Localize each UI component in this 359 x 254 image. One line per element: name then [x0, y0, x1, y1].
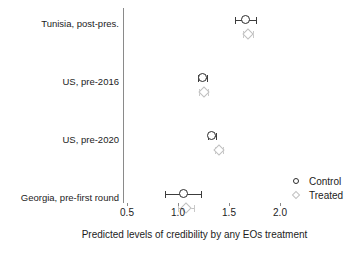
data-point-control[interactable]: [241, 15, 250, 24]
x-axis-tick-label-0: 0.5: [107, 207, 147, 218]
legend-item-control[interactable]: Control: [288, 174, 343, 188]
error-bar-cap: [253, 31, 254, 38]
x-axis-tick-1: [178, 203, 179, 206]
x-axis-tick-label-2: 1.5: [209, 207, 249, 218]
x-axis-tick-3: [280, 203, 281, 206]
chart-figure: Tunisia, post-pres. US, pre-2016 US, pre…: [0, 0, 359, 254]
error-bar-cap: [165, 191, 166, 198]
error-bar-cap: [201, 191, 202, 198]
error-bar-cap: [256, 17, 257, 24]
x-axis-title: Predicted levels of credibility by any E…: [0, 229, 359, 240]
x-axis-tick-2: [229, 203, 230, 206]
legend-label-treated: Treated: [309, 190, 343, 201]
legend-item-treated[interactable]: Treated: [288, 188, 343, 202]
open-diamond-icon: [288, 192, 304, 198]
chart-legend: Control Treated: [288, 174, 343, 202]
open-circle-icon: [288, 178, 304, 184]
legend-label-control: Control: [309, 176, 341, 187]
data-point-treated[interactable]: [243, 28, 254, 39]
x-axis-tick-0: [127, 203, 128, 206]
data-point-control[interactable]: [179, 189, 188, 198]
error-bar-cap: [235, 17, 236, 24]
x-axis-tick-label-1: 1.0: [158, 207, 198, 218]
x-axis-tick-label-3: 2.0: [260, 207, 300, 218]
data-point-control[interactable]: [198, 73, 207, 82]
